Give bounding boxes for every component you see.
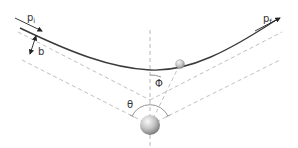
subscript-i: i	[33, 17, 35, 25]
subscript-f: f	[269, 18, 271, 26]
scattering-diagram	[0, 0, 298, 148]
radius-line	[150, 64, 180, 125]
impact-parameter-label: b	[38, 47, 44, 57]
outgoing-momentum-label: pf	[263, 14, 272, 26]
trajectory-curve	[20, 20, 276, 70]
incoming-momentum-label: pi	[27, 13, 35, 25]
incoming-asymptote	[18, 32, 150, 100]
phi-arc	[150, 75, 161, 77]
nucleus-sphere	[140, 115, 160, 135]
particle-sphere	[176, 60, 185, 69]
phi-angle-label: Φ	[155, 79, 163, 89]
scattering-angle-label: θ	[127, 100, 133, 110]
outgoing-asymptote	[150, 32, 282, 100]
